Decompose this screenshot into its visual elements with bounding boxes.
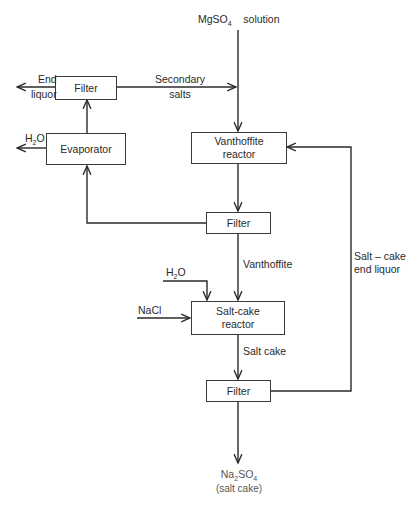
h2o-feed-label: H2O <box>166 266 186 280</box>
mgso4-solution-label: MgSO4 solution <box>198 13 280 27</box>
h2o-feed-line <box>163 281 207 300</box>
filter-bottom-box: Filter <box>206 380 271 402</box>
filter-bottom-label: Filter <box>227 385 250 398</box>
product-label: Na2SO4 (salt cake) <box>214 468 264 495</box>
filter-top-label: Filter <box>74 82 97 95</box>
nacl-label: NaCl <box>138 304 161 317</box>
salt-cake-stream-label: Salt cake <box>243 345 286 358</box>
vanthoffite-reactor-box: Vanthoffite reactor <box>191 132 287 164</box>
filter-mid-label: Filter <box>227 217 250 230</box>
filter-top-box: Filter <box>55 76 117 100</box>
vanthoffite-reactor-line1: Vanthoffite <box>214 135 263 148</box>
filter-mid-box: Filter <box>206 212 271 234</box>
vanthoffite-reactor-line2: reactor <box>223 148 256 161</box>
saltcake-reactor-line2: reactor <box>222 318 255 331</box>
evaporator-box: Evaporator <box>46 133 126 165</box>
saltcake-reactor-line1: Salt-cake <box>216 305 260 318</box>
h2o-evaporator-label: H2O <box>25 132 45 146</box>
saltcake-reactor-box: Salt-cake reactor <box>191 301 285 335</box>
vanthoffite-stream-label: Vanthoffite <box>243 258 292 271</box>
end-liquor-label: End liquor <box>31 73 57 101</box>
secondary-salts-label: Secondary salts <box>150 73 210 101</box>
filtrate-to-evaporator-line <box>87 166 206 223</box>
recycle-label: Salt – cake end liquor <box>354 250 406 276</box>
evaporator-label: Evaporator <box>60 143 111 156</box>
